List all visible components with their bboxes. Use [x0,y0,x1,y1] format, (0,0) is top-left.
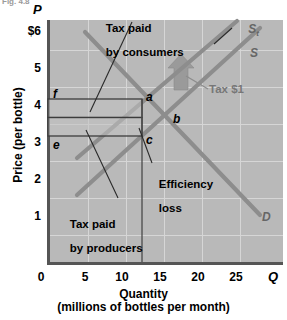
point-label-c: c [146,133,153,147]
x-tick-0: 0 [33,270,49,284]
x-tick-20: 20 [189,270,207,284]
x-axis-title-line2: (millions of bottles per month) [57,300,230,314]
y-axis-symbol: P [33,2,42,17]
annotation-tax-amount: Tax $1 [209,83,244,95]
x-tick-25: 25 [227,270,245,284]
annotation-consumers-line2: by consumers [106,46,184,58]
annotation-efficiency-loss: Efficiency loss [146,166,213,226]
y-tick-1: 1 [8,209,41,223]
point-label-a: a [146,90,153,104]
x-axis-symbol: Q [268,269,278,284]
x-tick-15: 15 [151,270,169,284]
y-tick-5: 5 [8,61,41,75]
curve-label-st-text: St [248,22,259,36]
annotation-efficiency-line1: Efficiency [159,178,213,190]
annotation-tax-paid-by-consumers: Tax paid by consumers [93,10,184,70]
tax-paid-by-producers-region [48,118,142,137]
point-label-e: e [53,138,60,152]
x-axis-title: Quantity (millions of bottles per month) [0,288,287,314]
annotation-efficiency-line2: loss [159,202,182,214]
y-tick-6: $6 [8,24,41,38]
annotation-consumers-line1: Tax paid [106,22,152,34]
annotation-producers-line2: by producers [70,242,143,254]
curve-label-d: D [262,210,271,224]
x-tick-5: 5 [77,270,93,284]
y-axis-title: Price (per bottle) [11,75,25,195]
x-axis-title-line1: Quantity [119,287,168,301]
curve-label-s: S [250,46,258,60]
annotation-tax-paid-by-producers: Tax paid by producers [57,206,143,266]
point-label-b: b [173,112,180,126]
figure-container: Fig. 4.8 [0,0,287,320]
x-tick-10: 10 [113,270,131,284]
point-label-f: f [53,87,57,101]
annotation-producers-line1: Tax paid [70,218,116,230]
